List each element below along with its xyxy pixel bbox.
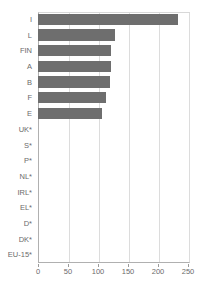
bar xyxy=(38,76,110,87)
bar xyxy=(38,92,106,103)
category-label: B xyxy=(0,75,35,91)
category-label: A xyxy=(0,59,35,75)
tick-label: 50 xyxy=(64,267,72,276)
category-label: L xyxy=(0,28,35,44)
tick-label: 0 xyxy=(36,267,40,276)
category-label: IRL* xyxy=(0,185,35,201)
bar-row xyxy=(38,28,190,44)
bar-row xyxy=(38,216,190,232)
bar-row xyxy=(38,59,190,75)
category-label: DK* xyxy=(0,232,35,248)
category-label: I xyxy=(0,12,35,28)
bar-row xyxy=(38,153,190,169)
bar-row xyxy=(38,185,190,201)
category-label: P* xyxy=(0,153,35,169)
category-label: D* xyxy=(0,216,35,232)
category-label: S* xyxy=(0,138,35,154)
tick-label: 150 xyxy=(122,267,135,276)
category-label: NL* xyxy=(0,169,35,185)
bar-row xyxy=(38,43,190,59)
category-axis: ILFINABFEUK*S*P*NL*IRL*EL*D*DK*EU-15* xyxy=(0,12,35,263)
category-label: E xyxy=(0,106,35,122)
bar xyxy=(38,61,111,72)
bar-row xyxy=(38,90,190,106)
tick-label: 250 xyxy=(182,267,195,276)
bar xyxy=(38,45,111,56)
bar-row xyxy=(38,106,190,122)
bar xyxy=(38,108,102,119)
bar-row xyxy=(38,138,190,154)
bar xyxy=(38,14,178,25)
category-label: EL* xyxy=(0,200,35,216)
category-label: EU-15* xyxy=(0,247,35,263)
category-label: UK* xyxy=(0,122,35,138)
tick-label: 200 xyxy=(152,267,165,276)
category-label: F xyxy=(0,90,35,106)
value-axis: 050100150200250 xyxy=(0,264,202,274)
bar-row xyxy=(38,169,190,185)
bar-row xyxy=(38,122,190,138)
bar-row xyxy=(38,75,190,91)
category-label: FIN xyxy=(0,43,35,59)
bar-row xyxy=(38,12,190,28)
bar-series xyxy=(38,12,190,263)
tick-label: 100 xyxy=(92,267,105,276)
bar-row xyxy=(38,200,190,216)
bar-chart: ILFINABFEUK*S*P*NL*IRL*EL*D*DK*EU-15* 05… xyxy=(0,0,202,291)
bar xyxy=(38,29,115,40)
bar-row xyxy=(38,247,190,263)
bar-row xyxy=(38,232,190,248)
